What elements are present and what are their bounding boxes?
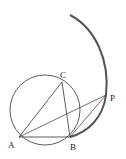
segment-ap <box>19 95 106 137</box>
label-b: B <box>70 142 76 152</box>
segment-ac <box>19 82 62 137</box>
label-a: A <box>8 140 15 150</box>
segment-bp <box>70 95 106 137</box>
label-p: P <box>110 93 115 103</box>
label-c: C <box>60 70 66 80</box>
thick-arc <box>70 15 107 137</box>
segment-bc <box>62 82 70 137</box>
geometry-diagram: A B C P <box>0 0 126 159</box>
